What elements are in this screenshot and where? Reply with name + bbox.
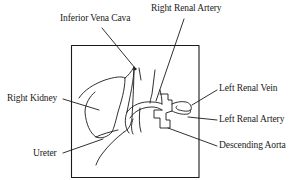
right-renal-artery-wall [160, 90, 162, 104]
leader-right-kidney [63, 99, 99, 110]
label-inferior-vena-cava: Inferior Vena Cava [60, 13, 130, 24]
aorta-left-wall [125, 112, 129, 133]
right-kidney-shape [79, 77, 125, 138]
leader-inferior-vena-cava [102, 28, 135, 68]
right-renal-artery-shape [150, 70, 155, 103]
leader-right-renal-artery [156, 19, 184, 101]
leader-left-renal-artery [188, 117, 217, 120]
label-right-kidney: Right Kidney [7, 93, 57, 104]
label-descending-aorta: Descending Aorta [219, 140, 286, 151]
leader-left-renal-vein [192, 90, 217, 105]
image-frame [72, 46, 200, 178]
label-ureter: Ureter [33, 148, 57, 159]
label-left-renal-artery: Left Renal Artery [219, 114, 284, 125]
label-right-renal-artery: Right Renal Artery [151, 3, 222, 14]
renal-arch-bottom [130, 107, 162, 118]
label-left-renal-vein: Left Renal Vein [219, 83, 277, 94]
leader-descending-aorta [168, 128, 217, 146]
left-renal-vein-shape [172, 102, 191, 112]
aorta-center [139, 108, 141, 132]
leader-ureter [63, 139, 103, 153]
ivc-right-wall [139, 68, 141, 80]
ureter-shape [96, 132, 124, 165]
leader-dot-ivc [134, 68, 136, 70]
